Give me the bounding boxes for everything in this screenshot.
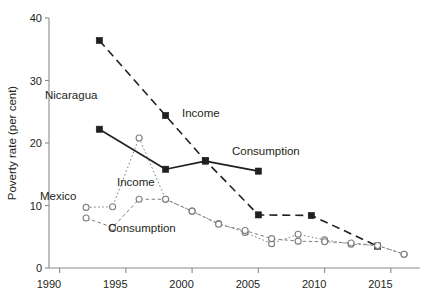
annotation-nicaragua-income: Income (182, 107, 220, 119)
data-point (255, 212, 261, 218)
data-point (96, 37, 102, 43)
data-point (202, 158, 208, 164)
data-point (136, 135, 142, 141)
data-point (216, 221, 222, 227)
data-point (163, 112, 169, 118)
annotation-nicaragua: Nicaragua (45, 89, 98, 101)
data-point (189, 208, 195, 214)
y-tick-labels: 40 30 20 10 0 (30, 12, 42, 274)
series-line (99, 41, 377, 247)
data-point (83, 215, 89, 221)
data-point (322, 239, 328, 245)
y-tick-label-30: 30 (30, 75, 42, 87)
x-tick-label-2010: 2010 (302, 278, 326, 290)
data-point (136, 196, 142, 202)
y-axis-ticks (45, 18, 49, 268)
data-point (401, 251, 407, 257)
chart-container: 40 30 20 10 0 1990 1995 2000 2005 2010 2… (0, 0, 428, 305)
x-tick-label-2000: 2000 (169, 278, 193, 290)
data-point (163, 166, 169, 172)
data-point (375, 243, 381, 249)
y-tick-label-20: 20 (30, 137, 42, 149)
data-point (308, 212, 314, 218)
annotation-mexico-consumption: Consumption (108, 222, 176, 234)
data-point (269, 236, 275, 242)
data-point (110, 204, 116, 210)
data-point (163, 196, 169, 202)
x-tick-label-1990: 1990 (37, 278, 61, 290)
data-point (83, 204, 89, 210)
x-tick-label-2005: 2005 (236, 278, 260, 290)
data-point (348, 240, 354, 246)
data-point (242, 228, 248, 234)
annotation-mexico: Mexico (40, 190, 76, 202)
data-point (295, 231, 301, 237)
annotation-nicaragua-consumption: Consumption (232, 145, 300, 157)
y-tick-label-40: 40 (30, 12, 42, 24)
y-axis-title: Poverty rate (per cent) (6, 86, 18, 201)
x-tick-label-2015: 2015 (368, 278, 392, 290)
data-point (96, 126, 102, 132)
annotation-mexico-income: Income (117, 176, 155, 188)
poverty-rate-line-chart: 40 30 20 10 0 1990 1995 2000 2005 2010 2… (0, 0, 428, 305)
series-nicaragua-income (96, 37, 380, 249)
data-point (295, 238, 301, 244)
x-tick-label-1995: 1995 (103, 278, 127, 290)
x-axis-ticks (60, 268, 391, 273)
x-tick-labels: 1990 1995 2000 2005 2010 2015 (37, 278, 393, 290)
y-tick-label-0: 0 (36, 262, 42, 274)
data-point (255, 168, 261, 174)
